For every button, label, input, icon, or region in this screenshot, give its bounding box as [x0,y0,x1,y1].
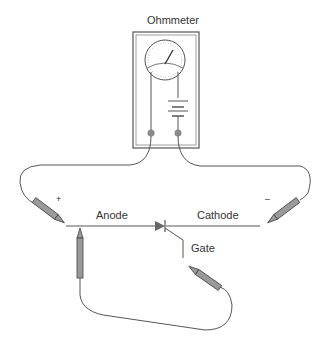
positive-lead-wire [20,136,151,204]
gate-probe [187,264,222,291]
gate-label: Gate [191,242,215,254]
cathode-label: Cathode [197,209,239,221]
anode-label: Anode [96,209,128,221]
jumper-wire [80,278,232,330]
circuit-drawing [0,0,329,343]
scr-ohmmeter-test-diagram: Ohmmeter Anode Cathode Gate + – [0,0,329,343]
negative-probe [266,198,300,226]
jumper-probe-anode [77,228,83,278]
ohmmeter [133,32,199,148]
negative-sign: – [265,194,270,204]
positive-sign: + [56,194,61,204]
ohmmeter-label: Ohmmeter [147,14,199,26]
